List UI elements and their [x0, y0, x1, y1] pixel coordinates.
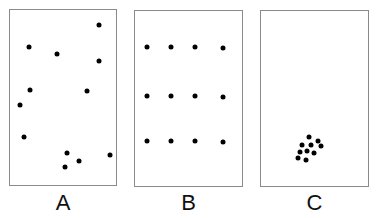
panel-a-random	[9, 9, 117, 186]
dot	[300, 143, 305, 148]
dot	[85, 89, 90, 94]
panel-b-uniform	[134, 10, 243, 187]
dot	[145, 139, 150, 144]
dot	[221, 46, 226, 51]
dot	[312, 151, 317, 156]
dot	[193, 45, 198, 50]
dot	[319, 144, 324, 149]
panel-b-label: B	[169, 191, 209, 215]
dot	[169, 94, 174, 99]
panel-c-label: C	[295, 191, 335, 215]
dot	[221, 95, 226, 100]
dot	[77, 159, 82, 164]
dot	[27, 45, 32, 50]
dot	[169, 139, 174, 144]
dot	[309, 143, 314, 148]
dot	[108, 153, 113, 158]
dot	[28, 88, 33, 93]
panel-a-label: A	[43, 191, 83, 215]
dot	[18, 103, 23, 108]
dot	[298, 150, 303, 155]
dot	[65, 151, 70, 156]
dot	[307, 135, 312, 140]
dot	[145, 45, 150, 50]
dot	[97, 59, 102, 64]
dot	[193, 139, 198, 144]
dot	[296, 156, 301, 161]
panel-c-clustered	[260, 10, 369, 187]
dot	[145, 94, 150, 99]
dot	[304, 158, 309, 163]
dot	[305, 149, 310, 154]
dot	[22, 135, 27, 140]
dot	[63, 165, 68, 170]
dot	[169, 45, 174, 50]
dot	[193, 94, 198, 99]
dot	[97, 23, 102, 28]
dot	[221, 140, 226, 145]
dot	[55, 52, 60, 57]
